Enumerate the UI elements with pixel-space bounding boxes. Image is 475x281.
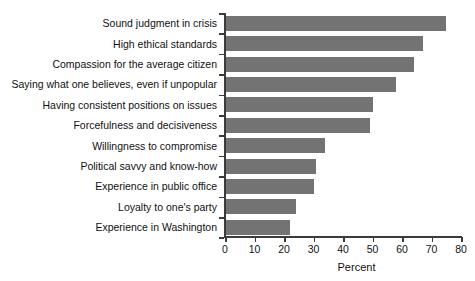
category-label: Loyalty to one's party <box>118 202 217 213</box>
x-axis-tick <box>461 237 463 242</box>
x-axis-tick-label: 20 <box>278 244 290 255</box>
x-axis-tick-label: 40 <box>337 244 349 255</box>
category-label: High ethical standards <box>113 39 217 50</box>
x-axis-tick-label: 0 <box>222 244 228 255</box>
category-label: Sound judgment in crisis <box>103 18 217 29</box>
category-label: Experience in public office <box>95 181 217 192</box>
bar <box>225 118 370 133</box>
bar <box>225 199 296 214</box>
category-label: Political savvy and know-how <box>80 161 217 172</box>
bar <box>225 36 423 51</box>
category-label: Willingness to compromise <box>92 141 217 152</box>
y-axis-tick <box>219 135 224 137</box>
x-axis-title: Percent <box>0 261 475 273</box>
y-axis-tick <box>219 33 224 35</box>
x-axis-tick-label: 60 <box>396 244 408 255</box>
x-axis-tick <box>343 237 345 242</box>
category-label: Forcefulness and decisiveness <box>73 120 217 131</box>
x-axis-title-text: Percent <box>338 261 376 273</box>
bar <box>225 77 396 92</box>
category-label: Saying what one believes, even if unpopu… <box>12 79 217 90</box>
x-axis-tick <box>373 237 375 242</box>
bar <box>225 16 446 31</box>
x-axis-tick <box>225 237 227 242</box>
bar <box>225 57 414 72</box>
x-axis-tick-label: 70 <box>426 244 438 255</box>
bar <box>225 179 314 194</box>
y-axis-line <box>224 13 226 237</box>
category-label: Compassion for the average citizen <box>52 59 217 70</box>
x-axis-tick-label: 30 <box>308 244 320 255</box>
y-axis-tick <box>219 197 224 199</box>
x-axis-tick-label: 10 <box>249 244 261 255</box>
y-axis-tick <box>219 176 224 178</box>
bar <box>225 220 290 235</box>
x-axis-tick-label: 50 <box>367 244 379 255</box>
x-axis-tick <box>255 237 257 242</box>
category-label: Experience in Washington <box>95 222 217 233</box>
y-axis-tick <box>219 217 224 219</box>
category-label-column: Sound judgment in crisisHigh ethical sta… <box>0 0 221 281</box>
y-axis-tick <box>219 74 224 76</box>
plot-area <box>225 13 461 237</box>
y-axis-tick <box>219 115 224 117</box>
x-axis-tick <box>314 237 316 242</box>
y-axis-tick <box>219 54 224 56</box>
y-axis-tick <box>219 95 224 97</box>
bar <box>225 97 373 112</box>
x-axis-tick <box>402 237 404 242</box>
y-axis-tick <box>219 13 224 15</box>
y-axis-tick <box>219 156 224 158</box>
y-axis-tick <box>219 237 224 239</box>
x-axis-tick <box>284 237 286 242</box>
category-label: Having consistent positions on issues <box>42 100 217 111</box>
bar-chart: Sound judgment in crisisHigh ethical sta… <box>0 0 475 281</box>
x-axis-tick <box>432 237 434 242</box>
x-axis-tick-label: 80 <box>455 244 467 255</box>
bar <box>225 138 325 153</box>
bar <box>225 159 316 174</box>
